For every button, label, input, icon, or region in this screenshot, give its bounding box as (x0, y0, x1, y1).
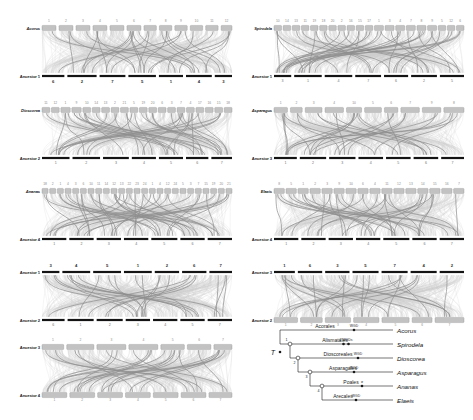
chromosome-label-top: 2 (52, 182, 54, 186)
chromosome-label-bottom: 1 (80, 323, 82, 327)
chromosome-label-top: 4 (333, 101, 335, 105)
chromosome-label-bottom: 2 (85, 161, 87, 165)
chromosome-label-top: 4 (159, 182, 161, 186)
tree-wgd-label: 2 WGDs (340, 338, 353, 342)
chromosome-label-bottom: 3 (115, 161, 117, 165)
chromosome-label-bottom: 2 (80, 242, 82, 246)
chromosome-label-bottom: 4 (367, 242, 369, 246)
chromosome-label-top: 4 (399, 19, 401, 23)
chromosome-label-top: 9 (431, 101, 433, 105)
chromosome-label-bottom: 1 (170, 79, 172, 84)
chromosome-label-top: 2 (314, 182, 316, 186)
tree-tip-dioscorea: Dioscorea (397, 355, 425, 362)
chromosome-label-top: 19 (141, 101, 145, 105)
chromosome-label-top: 2 (65, 19, 67, 23)
chromosome-label-top: 3 (326, 182, 328, 186)
row-label-bottom: Ancestor 4 (252, 237, 272, 242)
chromosome-label-top: 4 (374, 182, 376, 186)
chromosome-label-top: 6 (161, 101, 163, 105)
chromosome-label-top: 16 (445, 182, 449, 186)
chromosome-label-bottom: 3 (109, 398, 111, 402)
chromosome-label-top: 5 (182, 182, 184, 186)
tree-order-poales: Poales (343, 379, 358, 385)
chromosome-label-bottom: 3 (222, 79, 224, 84)
tree-wgd-label: WGD (350, 366, 358, 370)
chromosome-label-top: 1 (137, 263, 139, 268)
chromosome-label-top: 5 (364, 263, 366, 268)
chromosome-label-bottom: 5 (170, 161, 172, 165)
row-label-top: Ancestor 3 (252, 270, 272, 275)
chromosome-label-top: 1 (378, 19, 380, 23)
chromosome-label-top: 10 (89, 182, 93, 186)
row-label-bottom: Ancestor 1 (252, 74, 272, 79)
chromosome-label-bottom: 6 (52, 79, 54, 84)
chromosome-label-top: 9 (76, 101, 78, 105)
chromosome-label-bottom: 7 (111, 79, 113, 84)
chromosome-label-bottom: 5 (192, 323, 194, 327)
chromosome-label-bottom: 7 (219, 323, 221, 327)
chromosome-label-top: 7 (409, 101, 411, 105)
chromosome-label-top: 11 (44, 101, 47, 105)
chromosome-label-top: 17 (367, 19, 371, 23)
row-label-bottom: Ancestor 4 (20, 393, 40, 398)
row-label-top: Acorus (26, 26, 40, 31)
chromosome-label-bottom: 3 (341, 161, 343, 165)
chromosome-label-bottom: 1 (53, 242, 55, 246)
chromosome-label-bottom: 6 (193, 398, 195, 402)
tree-tip-elaeis: Elaeis (397, 397, 414, 404)
chromosome-label-top: 7 (393, 263, 395, 268)
chromosome-label-bottom: 4 (135, 242, 137, 246)
chromosome-label-bottom: 7 (451, 242, 453, 246)
chromosome-label-bottom: 1 (285, 242, 287, 246)
chromosome-label-top: 16 (349, 19, 353, 23)
tree-order-acorales: Acorales (315, 323, 334, 329)
chromosome-label-top: 3 (110, 338, 112, 342)
chromosome-label-top: 5 (372, 101, 374, 105)
phylogenetic-tree: AcorusSpirodelaDioscoreaAsparagusAnanasE… (258, 318, 471, 418)
chromosome-label-bottom: 7 (221, 161, 223, 165)
chromosome-label-top: 10 (276, 19, 280, 23)
panel-spirodela: SpirodelaAncestor 1101413111918202161517… (240, 14, 468, 92)
chromosome-label-top: 7 (410, 19, 412, 23)
tree-root-symbol: T (271, 349, 275, 356)
chromosome-label-top: 5 (290, 182, 292, 186)
chromosome-label-bottom: 2 (81, 79, 83, 84)
chromosome-label-bottom: 3 (340, 242, 342, 246)
chromosome-label-top: 2 (295, 101, 297, 105)
chromosome-label-top: 18 (43, 182, 47, 186)
tree-node-1: 1 (286, 338, 288, 342)
chromosome-label-top: 3 (82, 19, 84, 23)
chromosome-label-bottom: 2 (423, 79, 425, 83)
chromosome-label-top: 1 (302, 182, 304, 186)
row-label-bottom: Ancestor 4 (20, 237, 40, 242)
chromosome-label-top: 9 (338, 182, 340, 186)
chromosome-label-top: 12 (449, 19, 453, 23)
chromosome-label-bottom: 4 (370, 161, 372, 165)
chromosome-label-top: 15 (433, 182, 437, 186)
chromosome-label-top: 12 (166, 182, 170, 186)
chromosome-label-top: 2 (114, 101, 116, 105)
chromosome-label-top: 10 (352, 101, 356, 105)
chromosome-label-top: 3 (336, 263, 338, 268)
chromosome-label-top: 3 (75, 182, 77, 186)
panel-elaeis: ElaeisAncestor 4851239106411121314151671… (240, 177, 468, 255)
chromosome-label-bottom: 4 (137, 398, 139, 402)
chromosome-label-bottom: 5 (163, 242, 165, 246)
chromosome-label-bottom: 3 (282, 79, 284, 83)
chromosome-label-top: 21 (123, 101, 127, 105)
chromosome-label-top: 13 (409, 182, 413, 186)
chromosome-label-top: 4 (99, 19, 101, 23)
chromosome-label-bottom: 6 (395, 79, 397, 83)
chromosome-label-top: 6 (193, 263, 195, 268)
chromosome-label-top: 4 (67, 182, 69, 186)
chromosome-label-top: 24 (173, 182, 177, 186)
chromosome-label-top: 17 (198, 101, 202, 105)
chromosome-label-top: 20 (151, 101, 155, 105)
chromosome-label-bottom: 1 (284, 161, 286, 165)
chromosome-label-top: 19 (312, 19, 316, 23)
chromosome-label-bottom: 2 (81, 398, 83, 402)
chromosome-label-bottom: 6 (425, 161, 427, 165)
row-label-top: Ancestor 3 (20, 345, 40, 350)
chromosome-label-top: 3 (313, 101, 315, 105)
chromosome-label-top: 11 (303, 19, 306, 23)
